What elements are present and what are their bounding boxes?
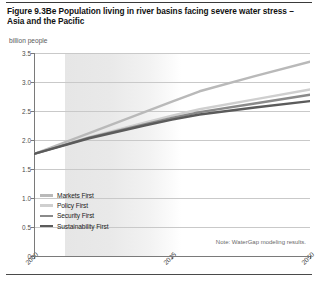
y-tick-label: 3.0	[22, 79, 31, 86]
figure-page: Figure 9.3Be Population living in river …	[0, 0, 318, 284]
figure-title: Figure 9.3Be Population living in river …	[7, 6, 309, 27]
y-tick-label: 1.0	[22, 195, 31, 202]
legend-item[interactable]: Policy First	[40, 202, 109, 209]
y-axis-label: billion people	[9, 37, 48, 44]
x-axis-line	[34, 256, 310, 257]
y-tick-label: 3.5	[22, 50, 31, 57]
y-tick-label: 1.5	[22, 166, 31, 173]
legend-item-label: Markets First	[57, 192, 94, 199]
legend-swatch	[40, 194, 53, 197]
chart-note: Note: WaterGap modeling results.	[216, 239, 306, 245]
y-tick-label: 2.5	[22, 108, 31, 115]
legend-item-label: Sustainability First	[57, 223, 109, 230]
series-line	[34, 101, 310, 154]
bottom-divider	[6, 274, 312, 275]
legend-swatch	[40, 215, 53, 218]
y-tick-label: 2.0	[22, 137, 31, 144]
legend-item[interactable]: Security First	[40, 212, 109, 219]
legend-item-label: Policy First	[57, 202, 88, 209]
legend-item[interactable]: Markets First	[40, 192, 109, 199]
legend-swatch	[40, 225, 53, 228]
legend-swatch	[40, 204, 53, 207]
legend-item[interactable]: Sustainability First	[40, 223, 109, 230]
top-divider	[6, 2, 312, 3]
series-line	[34, 95, 310, 154]
chart-plot-area: 3.53.02.52.01.51.00.50 200020252050 Mark…	[34, 53, 310, 256]
y-tick-label: 0.5	[22, 224, 31, 231]
chart-legend: Markets FirstPolicy FirstSecurity FirstS…	[40, 192, 109, 230]
legend-item-label: Security First	[57, 212, 94, 219]
series-line	[34, 90, 310, 154]
